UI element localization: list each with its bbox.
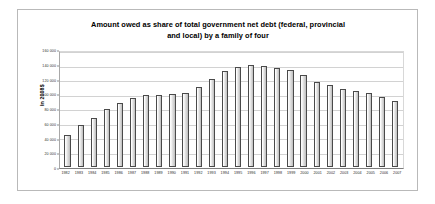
bar-slot: [179, 53, 192, 167]
x-label-slot: 2006: [377, 171, 390, 175]
bar[interactable]: [182, 93, 188, 167]
x-label-slot: 2002: [324, 171, 337, 175]
x-tick-label: 1995: [234, 171, 242, 175]
y-tick-label: 0: [54, 167, 56, 171]
bar[interactable]: [287, 70, 293, 167]
bar-slot: [140, 53, 153, 167]
x-tick-label: 1986: [114, 171, 122, 175]
x-label-slot: 2001: [311, 171, 324, 175]
bar[interactable]: [130, 98, 136, 167]
x-tick-label: 2005: [367, 171, 375, 175]
x-label-slot: 1985: [99, 171, 112, 175]
y-tick-mark: [57, 65, 59, 66]
y-tick-label: 40 000: [44, 138, 56, 142]
bar[interactable]: [78, 125, 84, 167]
x-tick-label: 1984: [88, 171, 96, 175]
bar[interactable]: [117, 103, 123, 167]
x-tick-label: 1983: [75, 171, 83, 175]
bar-slot: [87, 53, 100, 167]
bar[interactable]: [300, 75, 306, 167]
bar-slot: [363, 53, 376, 167]
x-tick-label: 2000: [300, 171, 308, 175]
chart-title-line-1: Amount owed as share of total government…: [48, 20, 388, 31]
bar-slot: [336, 53, 349, 167]
bar[interactable]: [366, 93, 372, 167]
bar-slot: [113, 53, 126, 167]
y-tick-label: 20 000: [44, 152, 56, 156]
x-label-slot: 1994: [218, 171, 231, 175]
y-tick-mark: [57, 95, 59, 96]
x-label-slot: 2007: [391, 171, 404, 175]
bar[interactable]: [314, 82, 320, 167]
bar-slot: [166, 53, 179, 167]
bar-slot: [258, 53, 271, 167]
y-tick-mark: [57, 110, 59, 111]
bar-slot: [310, 53, 323, 167]
x-tick-label: 2004: [353, 171, 361, 175]
x-tick-label: 1991: [181, 171, 189, 175]
y-tick-mark: [57, 80, 59, 81]
bar[interactable]: [143, 95, 149, 167]
bar[interactable]: [261, 66, 267, 167]
x-label-slot: 1986: [112, 171, 125, 175]
x-label-slot: 1990: [165, 171, 178, 175]
bar-slot: [153, 53, 166, 167]
y-tick-mark: [57, 154, 59, 155]
bar-slot: [376, 53, 389, 167]
x-label-slot: 1996: [245, 171, 258, 175]
y-tick-mark: [57, 51, 59, 52]
x-label-slot: 1997: [258, 171, 271, 175]
x-tick-label: 1988: [141, 171, 149, 175]
y-tick-label: 60 000: [44, 123, 56, 127]
x-label-slot: 2003: [338, 171, 351, 175]
y-tick-label: 80 000: [44, 108, 56, 112]
bar[interactable]: [379, 97, 385, 167]
x-axis-ticks: 1982198319841985198619871988198919901991…: [59, 171, 404, 175]
plot-wrap: 160 000140 000120 000100 00080 00060 000…: [59, 51, 404, 169]
bar-slot: [192, 53, 205, 167]
bar[interactable]: [222, 71, 228, 167]
bar[interactable]: [274, 68, 280, 167]
x-tick-label: 1999: [287, 171, 295, 175]
x-label-slot: 1982: [59, 171, 72, 175]
x-label-slot: 1984: [86, 171, 99, 175]
bar[interactable]: [169, 94, 175, 167]
bar[interactable]: [209, 79, 215, 167]
bar-slot: [323, 53, 336, 167]
bar[interactable]: [340, 89, 346, 167]
x-tick-label: 1997: [260, 171, 268, 175]
bar[interactable]: [91, 118, 97, 167]
chart-title: Amount owed as share of total government…: [48, 20, 388, 41]
bar-slot: [74, 53, 87, 167]
x-label-slot: 1988: [139, 171, 152, 175]
bar-series: [61, 53, 402, 167]
bar[interactable]: [156, 95, 162, 167]
bar[interactable]: [64, 135, 70, 167]
x-label-slot: 1999: [285, 171, 298, 175]
bar-slot: [205, 53, 218, 167]
x-label-slot: 1983: [72, 171, 85, 175]
x-label-slot: 1987: [125, 171, 138, 175]
x-tick-label: 2003: [340, 171, 348, 175]
bar[interactable]: [327, 85, 333, 167]
bar[interactable]: [196, 87, 202, 167]
y-tick-mark: [57, 169, 59, 170]
x-tick-label: 1982: [61, 171, 69, 175]
x-tick-label: 1998: [274, 171, 282, 175]
x-tick-label: 2007: [393, 171, 401, 175]
y-tick-mark: [57, 124, 59, 125]
y-tick-label: 120 000: [42, 79, 56, 83]
bar[interactable]: [353, 91, 359, 167]
x-tick-label: 1985: [101, 171, 109, 175]
x-label-slot: 1993: [205, 171, 218, 175]
x-label-slot: 1998: [271, 171, 284, 175]
bar[interactable]: [248, 65, 254, 167]
x-tick-label: 1990: [168, 171, 176, 175]
bar[interactable]: [104, 109, 110, 167]
bar[interactable]: [392, 101, 398, 167]
bar-slot: [389, 53, 402, 167]
bar-slot: [231, 53, 244, 167]
bar[interactable]: [235, 67, 241, 167]
y-tick-label: 160 000: [42, 49, 56, 53]
bar-slot: [127, 53, 140, 167]
